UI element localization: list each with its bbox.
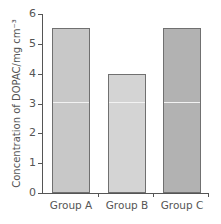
y-tick (38, 133, 42, 134)
x-tick-label: Group B (99, 199, 155, 211)
x-axis (42, 193, 209, 194)
y-tick (38, 44, 42, 45)
y-tick (38, 104, 42, 105)
bar-group-c (163, 28, 201, 193)
x-tick (98, 193, 99, 197)
bar-group-b (108, 74, 146, 193)
y-tick-label: 2 (26, 127, 36, 138)
bar-highlight-line (109, 102, 145, 103)
bar-group-a (52, 28, 90, 193)
y-tick-label: 0 (26, 187, 36, 198)
y-tick-label: 1 (26, 157, 36, 168)
x-tick (153, 193, 154, 197)
y-tick-label: 4 (26, 68, 36, 79)
y-tick (38, 193, 42, 194)
y-tick-label: 6 (26, 8, 36, 19)
y-axis-title: Concentration of DOPAC/mg cm⁻³ (11, 14, 22, 194)
bar-highlight-line (164, 102, 200, 103)
y-tick (38, 163, 42, 164)
y-tick-label: 3 (26, 98, 36, 109)
bar-highlight-line (53, 102, 89, 103)
y-tick-label: 5 (26, 38, 36, 49)
x-tick-label: Group C (154, 199, 210, 211)
x-tick (208, 193, 209, 197)
y-tick (38, 74, 42, 75)
x-tick-label: Group A (43, 199, 99, 211)
y-tick (38, 14, 42, 15)
y-axis (42, 14, 43, 194)
